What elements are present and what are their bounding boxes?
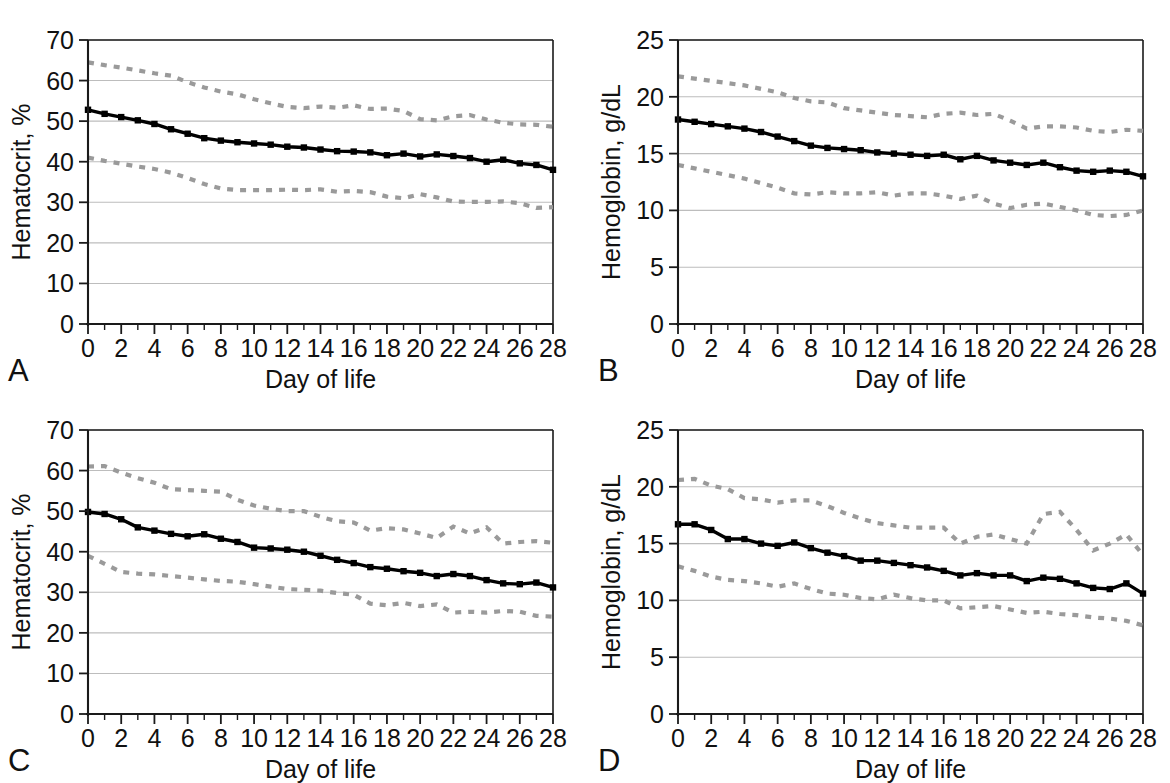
y-tick-label: 40	[46, 148, 74, 176]
x-tick-label: 4	[147, 334, 161, 362]
x-axis: 0246810121416182022242628	[671, 324, 1157, 362]
series-upper-percentile	[678, 76, 1143, 132]
y-axis: 0510152025	[636, 416, 678, 728]
x-tick-label: 0	[671, 724, 685, 752]
series-lower-percentile	[88, 158, 553, 208]
x-tick-label: 8	[804, 334, 818, 362]
x-tick-label: 26	[1096, 334, 1124, 362]
x-tick-label: 26	[506, 724, 534, 752]
panel-letter: A	[8, 353, 29, 388]
y-axis-title: Hematocrit, %	[7, 104, 35, 261]
x-tick-label: 24	[473, 724, 501, 752]
y-tick-label: 20	[636, 83, 664, 111]
x-axis-title: Day of life	[265, 755, 376, 783]
x-tick-label: 2	[704, 334, 718, 362]
x-tick-label: 8	[214, 334, 228, 362]
y-tick-label: 0	[60, 310, 74, 338]
x-tick-label: 12	[273, 724, 301, 752]
y-tick-label: 5	[650, 253, 664, 281]
x-tick-label: 2	[704, 724, 718, 752]
series-lower-percentile	[678, 566, 1143, 625]
y-tick-label: 60	[46, 457, 74, 485]
x-tick-label: 18	[373, 334, 401, 362]
y-tick-label: 10	[46, 269, 74, 297]
y-tick-label: 10	[636, 586, 664, 614]
y-tick-label: 40	[46, 538, 74, 566]
series-markers	[675, 521, 1146, 597]
y-tick-label: 20	[46, 619, 74, 647]
x-tick-label: 4	[737, 334, 751, 362]
y-tick-label: 50	[46, 497, 74, 525]
x-tick-label: 6	[181, 334, 195, 362]
x-tick-label: 28	[539, 334, 567, 362]
y-tick-label: 0	[650, 310, 664, 338]
x-tick-label: 22	[439, 334, 467, 362]
y-tick-label: 15	[636, 140, 664, 168]
x-tick-label: 12	[863, 724, 891, 752]
y-axis: 010203040506070	[46, 26, 88, 338]
plot-frame	[88, 430, 553, 714]
y-axis-title: Hematocrit, %	[7, 494, 35, 651]
y-tick-label: 60	[46, 67, 74, 95]
x-tick-label: 8	[804, 724, 818, 752]
x-tick-label: 20	[406, 334, 434, 362]
x-tick-label: 0	[81, 724, 95, 752]
series-markers	[85, 107, 556, 173]
series-upper-percentile	[88, 62, 553, 127]
plot-frame	[678, 40, 1143, 324]
x-tick-label: 14	[307, 334, 335, 362]
x-tick-label: 8	[214, 724, 228, 752]
y-tick-label: 0	[60, 700, 74, 728]
plot-frame	[88, 40, 553, 324]
y-tick-label: 15	[636, 530, 664, 558]
x-tick-label: 18	[373, 724, 401, 752]
plot-frame	[678, 430, 1143, 714]
x-tick-label: 28	[1129, 724, 1157, 752]
series-median	[678, 524, 1143, 593]
x-tick-label: 16	[930, 334, 958, 362]
x-axis-title: Day of life	[855, 365, 966, 393]
x-axis: 0246810121416182022242628	[81, 324, 567, 362]
chart-panel-d: 05101520250246810121416182022242628Day o…	[590, 390, 1170, 783]
y-tick-label: 10	[46, 659, 74, 687]
x-tick-label: 24	[473, 334, 501, 362]
x-tick-label: 16	[340, 724, 368, 752]
y-axis: 010203040506070	[46, 416, 88, 728]
y-tick-label: 0	[650, 700, 664, 728]
figure-container: 0102030405060700246810121416182022242628…	[0, 0, 1170, 783]
y-tick-label: 70	[46, 416, 74, 444]
x-tick-label: 0	[81, 334, 95, 362]
y-tick-label: 20	[636, 473, 664, 501]
x-tick-label: 10	[830, 334, 858, 362]
x-tick-label: 10	[830, 724, 858, 752]
x-tick-label: 28	[539, 724, 567, 752]
panel-letter: C	[8, 743, 30, 778]
chart-panel-c: 0102030405060700246810121416182022242628…	[0, 390, 580, 783]
series-markers	[85, 509, 556, 591]
x-tick-label: 14	[897, 334, 925, 362]
chart-panel-b: 05101520250246810121416182022242628Day o…	[590, 0, 1170, 393]
x-tick-label: 2	[114, 724, 128, 752]
x-tick-label: 22	[1029, 334, 1057, 362]
x-tick-label: 4	[737, 724, 751, 752]
x-tick-label: 24	[1063, 724, 1091, 752]
x-tick-label: 18	[963, 334, 991, 362]
x-tick-label: 12	[863, 334, 891, 362]
panel-letter: B	[598, 353, 619, 388]
y-tick-label: 10	[636, 196, 664, 224]
y-tick-label: 30	[46, 188, 74, 216]
x-tick-label: 26	[1096, 724, 1124, 752]
series-lower-percentile	[88, 556, 553, 617]
x-tick-label: 14	[897, 724, 925, 752]
x-tick-label: 10	[240, 724, 268, 752]
x-tick-label: 20	[996, 334, 1024, 362]
x-tick-label: 4	[147, 724, 161, 752]
x-axis: 0246810121416182022242628	[81, 714, 567, 752]
x-tick-label: 6	[771, 724, 785, 752]
x-tick-label: 22	[439, 724, 467, 752]
series-median	[88, 512, 553, 587]
x-tick-label: 14	[307, 724, 335, 752]
x-tick-label: 24	[1063, 334, 1091, 362]
x-tick-label: 26	[506, 334, 534, 362]
x-tick-label: 20	[996, 724, 1024, 752]
